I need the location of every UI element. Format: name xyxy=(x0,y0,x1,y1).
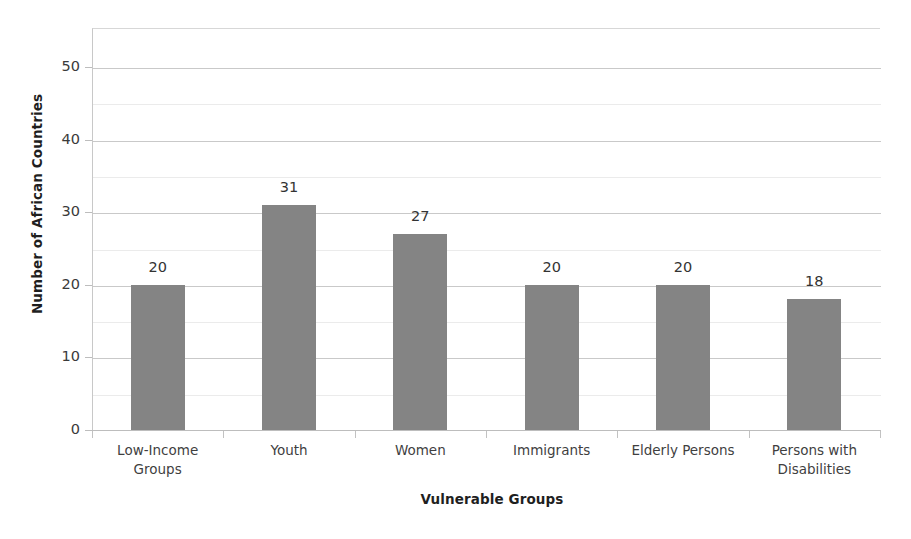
gridline-major xyxy=(93,358,881,359)
y-axis-tick xyxy=(85,67,92,68)
bar-value-label: 20 xyxy=(522,260,582,275)
gridline-minor xyxy=(93,322,881,323)
x-axis-category-label-line: Youth xyxy=(223,441,354,460)
x-axis-category-label: Immigrants xyxy=(486,441,617,460)
gridline-minor xyxy=(93,395,881,396)
y-axis-tick-label: 0 xyxy=(20,422,80,437)
x-axis-tick xyxy=(617,431,618,438)
bar[interactable] xyxy=(787,299,841,430)
bar[interactable] xyxy=(131,285,185,430)
y-axis-tick xyxy=(85,357,92,358)
x-axis-category-label: Persons withDisabilities xyxy=(749,441,880,478)
bar[interactable] xyxy=(393,234,447,430)
x-axis-category-label: Women xyxy=(355,441,486,460)
y-axis-tick-labels: 50403020100 xyxy=(12,0,80,539)
bar-value-label: 27 xyxy=(390,209,450,224)
y-axis-tick xyxy=(85,430,92,431)
gridline-major xyxy=(93,68,881,69)
y-axis-tick xyxy=(85,212,92,213)
x-axis-tick xyxy=(92,431,93,438)
y-axis-tick-label: 50 xyxy=(20,59,80,74)
bar-value-label: 20 xyxy=(128,260,188,275)
y-axis-tick xyxy=(85,140,92,141)
x-axis-category-label: Elderly Persons xyxy=(617,441,748,460)
bar[interactable] xyxy=(656,285,710,430)
x-axis-category-label-line: Disabilities xyxy=(749,460,880,479)
y-axis-tick-label: 40 xyxy=(20,132,80,147)
x-axis-category-label: Youth xyxy=(223,441,354,460)
plot-area xyxy=(92,28,880,430)
y-axis-tick-label: 30 xyxy=(20,204,80,219)
gridline-major xyxy=(93,286,881,287)
x-axis-category-label: Low-IncomeGroups xyxy=(92,441,223,478)
y-axis-tick xyxy=(85,285,92,286)
bar-chart: Number of African Countries Vulnerable G… xyxy=(0,0,911,539)
gridline-minor xyxy=(93,250,881,251)
x-axis-tick xyxy=(355,431,356,438)
gridline-major xyxy=(93,213,881,214)
x-axis-category-label-line: Elderly Persons xyxy=(617,441,748,460)
bar[interactable] xyxy=(262,205,316,430)
y-axis-tick-label: 20 xyxy=(20,277,80,292)
gridline-minor xyxy=(93,104,881,105)
y-axis-tick-label: 10 xyxy=(20,349,80,364)
x-axis-category-label-line: Groups xyxy=(92,460,223,479)
gridline-major xyxy=(93,141,881,142)
x-axis-tick xyxy=(749,431,750,438)
x-axis-title: Vulnerable Groups xyxy=(392,491,592,507)
bar-value-label: 31 xyxy=(259,180,319,195)
x-axis-category-label-line: Persons with xyxy=(749,441,880,460)
gridline-minor xyxy=(93,177,881,178)
bar-value-label: 18 xyxy=(784,274,844,289)
x-axis-tick xyxy=(223,431,224,438)
x-axis-category-label-line: Immigrants xyxy=(486,441,617,460)
x-axis-tick xyxy=(880,431,881,438)
x-axis-category-label-line: Low-Income xyxy=(92,441,223,460)
bar-value-label: 20 xyxy=(653,260,713,275)
x-axis-tick xyxy=(486,431,487,438)
x-axis-category-label-line: Women xyxy=(355,441,486,460)
bar[interactable] xyxy=(525,285,579,430)
